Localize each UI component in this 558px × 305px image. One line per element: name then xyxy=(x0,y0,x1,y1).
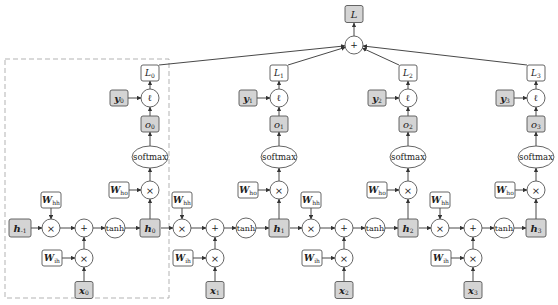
loss-fn-label: ℓ xyxy=(148,93,152,103)
add-op-label: + xyxy=(80,223,88,233)
total-loss-label: L xyxy=(350,9,358,20)
multiply-op-label: × xyxy=(340,253,348,264)
multiply-op-label: × xyxy=(275,185,283,196)
multiply-op-label: × xyxy=(436,223,444,234)
softmax-op-label: softmax xyxy=(133,152,167,162)
multiply-op-label: × xyxy=(307,223,315,234)
softmax-op-label: softmax xyxy=(262,152,296,162)
loss-fn-label: ℓ xyxy=(277,93,281,103)
loss-fn-label: ℓ xyxy=(406,93,410,103)
nodes: L+h-1Whh×+Wih×x0tanhh0×Whosoftmaxo0ℓy0L0… xyxy=(9,6,554,299)
tanh-op-label: tanh xyxy=(366,224,384,233)
multiply-op-label: × xyxy=(211,253,219,264)
tanh-op-label: tanh xyxy=(495,224,513,233)
sum-op-label: + xyxy=(350,40,358,50)
multiply-op-label: × xyxy=(80,253,88,264)
add-op-label: + xyxy=(211,223,219,233)
rnn-computational-graph: L+h-1Whh×+Wih×x0tanhh0×Whosoftmaxo0ℓy0L0… xyxy=(0,0,558,305)
multiply-op-label: × xyxy=(404,185,412,196)
tanh-op-label: tanh xyxy=(106,224,124,233)
add-op-label: + xyxy=(340,223,348,233)
multiply-op-label: × xyxy=(47,223,55,234)
multiply-op-label: × xyxy=(146,185,154,196)
multiply-op-label: × xyxy=(469,253,477,264)
multiply-op-label: × xyxy=(178,223,186,234)
tanh-op-label: tanh xyxy=(237,224,255,233)
add-op-label: + xyxy=(469,223,477,233)
softmax-op-label: softmax xyxy=(391,152,425,162)
multiply-op-label: × xyxy=(532,185,540,196)
loss-fn-label: ℓ xyxy=(534,93,538,103)
softmax-op-label: softmax xyxy=(519,152,553,162)
